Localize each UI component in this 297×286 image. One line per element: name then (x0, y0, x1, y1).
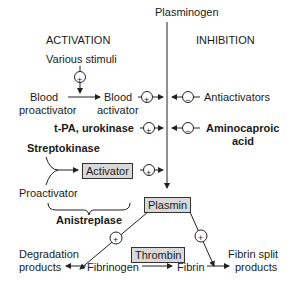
plus-sign: + (77, 74, 82, 86)
plus-sign: + (144, 94, 149, 106)
fibrin-label: Fibrin (177, 261, 205, 273)
minus-sign: − (185, 125, 190, 137)
fibrin-split-line1: Fibrin split (228, 248, 278, 260)
aminocaproic-line2: acid (232, 135, 254, 147)
inhibition-header: INHIBITION (196, 34, 255, 46)
aminocaproic-line1: Aminocaproic (206, 122, 279, 134)
proactivator-label: Proactivator (19, 187, 78, 199)
activator-box: Activator (82, 163, 133, 179)
minus-sign: − (185, 94, 190, 106)
anistreplase-label: Anistreplase (56, 214, 122, 226)
fibrinogen-label: Fibrinogen (87, 261, 139, 273)
plus-sign: + (146, 167, 151, 179)
blood-proactivator-line1: Blood (30, 91, 58, 103)
plasminogen-label: Plasminogen (155, 6, 219, 18)
plus-sign: + (198, 232, 203, 244)
blood-proactivator-line2: proactivator (19, 104, 76, 116)
tpa-urokinase-label: t-PA, urokinase (54, 122, 134, 134)
activation-header: ACTIVATION (46, 34, 110, 46)
degradation-line1: Degradation (19, 248, 79, 260)
blood-activator-line2: activator (97, 104, 139, 116)
fibrin-split-line2: products (235, 261, 277, 273)
degradation-line2: products (19, 261, 61, 273)
blood-activator-line1: Blood (104, 91, 132, 103)
antiactivators-label: Antiactivators (204, 91, 270, 103)
plasmin-box: Plasmin (144, 197, 191, 213)
plus-sign: + (113, 234, 118, 246)
plus-sign: + (146, 125, 151, 137)
streptokinase-label: Streptokinase (27, 142, 100, 154)
various-stimuli-label: Various stimuli (46, 53, 117, 65)
